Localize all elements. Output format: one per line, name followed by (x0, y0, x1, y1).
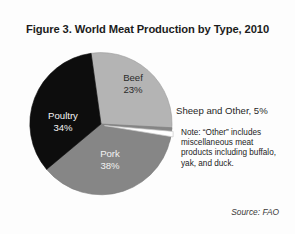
chart-note-line-2: miscellaneous meat (181, 138, 289, 148)
chart-note: Note: “Other” includes miscellaneous mea… (181, 128, 289, 169)
pie-callout-sheep-and-other: Sheep and Other, 5% (176, 105, 268, 116)
chart-note-line-4: yak, and duck. (181, 159, 289, 169)
chart-note-line-3: products including buffalo, (181, 148, 289, 158)
source-credit: Source: FAO (231, 207, 279, 217)
figure-container: Figure 3. World Meat Production by Type,… (0, 0, 295, 234)
pie-chart (0, 0, 295, 234)
chart-note-line-1: Note: “Other” includes (181, 128, 289, 138)
